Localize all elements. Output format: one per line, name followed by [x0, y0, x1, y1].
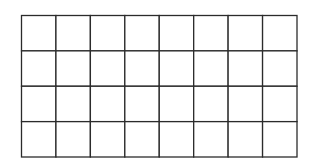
- grid-cell-r2-c6: [194, 51, 228, 86]
- grid-cell-r2-c1: [22, 51, 56, 86]
- grid-cell-r2-c5: [159, 51, 193, 86]
- grid-cell-r3-c5: [159, 86, 193, 121]
- grid-cell-r1-c3: [90, 16, 124, 51]
- grid-cell-r4-c8: [263, 122, 297, 157]
- grid-cell-r1-c5: [159, 16, 193, 51]
- grid-cell-r4-c4: [125, 122, 159, 157]
- grid-cell-r4-c7: [228, 122, 262, 157]
- grid-cell-r4-c3: [90, 122, 124, 157]
- grid-cell-r3-c7: [228, 86, 262, 121]
- grid-cell-r4-c6: [194, 122, 228, 157]
- grid-cell-r3-c2: [56, 86, 90, 121]
- grid-cell-r4-c5: [159, 122, 193, 157]
- grid-cell-r2-c3: [90, 51, 124, 86]
- grid-cell-r3-c4: [125, 86, 159, 121]
- grid-cell-r2-c7: [228, 51, 262, 86]
- grid-cell-r1-c8: [263, 16, 297, 51]
- grid-cell-r1-c1: [22, 16, 56, 51]
- grid-cell-r2-c8: [263, 51, 297, 86]
- grid-cell-r2-c2: [56, 51, 90, 86]
- grid-cell-r4-c2: [56, 122, 90, 157]
- grid-cell-r1-c6: [194, 16, 228, 51]
- grid-cell-r1-c7: [228, 16, 262, 51]
- grid-cell-r1-c2: [56, 16, 90, 51]
- grid-cell-r3-c8: [263, 86, 297, 121]
- grid-cell-r3-c3: [90, 86, 124, 121]
- grid-cell-r4-c1: [22, 122, 56, 157]
- grid-cell-r3-c1: [22, 86, 56, 121]
- empty-grid: [0, 0, 332, 167]
- grid-cell-r3-c6: [194, 86, 228, 121]
- grid-cell-r1-c4: [125, 16, 159, 51]
- grid-cell-r2-c4: [125, 51, 159, 86]
